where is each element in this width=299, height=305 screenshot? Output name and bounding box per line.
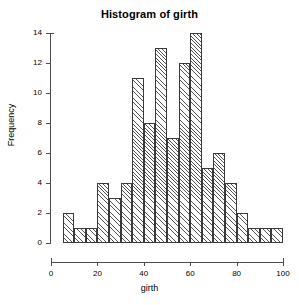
x-tick-mark — [190, 262, 191, 266]
histogram-bar — [155, 48, 167, 243]
histogram-bar — [167, 138, 179, 243]
x-tick-label: 40 — [129, 269, 159, 278]
x-axis-line — [51, 262, 284, 263]
histogram-bar — [97, 183, 109, 243]
y-tick-label: 14 — [2, 29, 42, 37]
histogram-bar — [86, 228, 98, 243]
histogram-bar — [144, 123, 156, 243]
histogram-bar — [179, 63, 191, 243]
histogram-bar — [248, 228, 260, 243]
histogram-bar — [271, 228, 283, 243]
x-tick-mark — [144, 262, 145, 266]
histogram-bar — [109, 198, 121, 243]
y-axis-label: Frequency — [6, 90, 16, 160]
y-tick-mark — [46, 93, 50, 94]
y-tick-mark — [46, 183, 50, 184]
histogram-bar — [260, 228, 272, 243]
x-axis-label: girth — [0, 283, 299, 293]
histogram-chart: Histogram of girth 02468101214 020406080… — [0, 0, 299, 305]
histogram-bar — [63, 213, 75, 243]
x-tick-mark — [237, 262, 238, 266]
y-axis-top-cap — [50, 33, 54, 34]
y-tick-mark — [46, 153, 50, 154]
x-tick-label: 80 — [222, 269, 252, 278]
x-tick-mark — [51, 262, 52, 266]
y-tick-mark — [46, 33, 50, 34]
y-tick-label: 0 — [2, 239, 42, 247]
histogram-bar — [237, 213, 249, 243]
histogram-bar — [202, 168, 214, 243]
y-tick-mark — [46, 243, 50, 244]
x-tick-label: 60 — [175, 269, 205, 278]
y-axis-line — [50, 33, 51, 244]
histogram-bar — [225, 183, 237, 243]
histogram-bar — [190, 33, 202, 243]
y-tick-mark — [46, 213, 50, 214]
x-tick-label: 100 — [268, 269, 298, 278]
y-tick-label: 4 — [2, 179, 42, 187]
x-tick-mark — [283, 262, 284, 266]
y-tick-mark — [46, 63, 50, 64]
histogram-bar — [74, 228, 86, 243]
y-tick-label: 12 — [2, 59, 42, 67]
x-tick-mark — [97, 262, 98, 266]
y-tick-label: 2 — [2, 209, 42, 217]
x-tick-label: 0 — [36, 269, 66, 278]
histogram-bar — [132, 78, 144, 243]
histogram-bar — [121, 183, 133, 243]
histogram-bar — [213, 153, 225, 243]
x-tick-label: 20 — [82, 269, 112, 278]
y-tick-mark — [46, 123, 50, 124]
